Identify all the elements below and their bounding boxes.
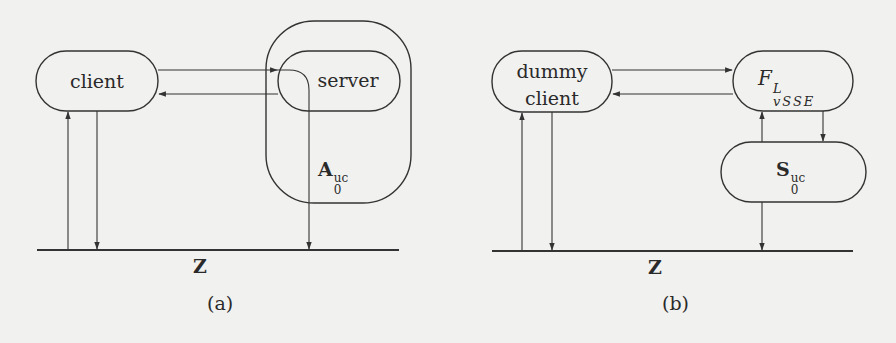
environment-label-a: Z — [193, 255, 207, 277]
adversary-symbol: A — [318, 158, 333, 180]
functionality-sub: vSSE — [773, 95, 815, 108]
dummy-client-line2: client — [492, 85, 612, 112]
adversary-sub: 0 — [334, 184, 348, 196]
diagram-canvas — [0, 0, 896, 343]
dummy-client-label: dummy client — [492, 58, 612, 112]
environment-label-b: Z — [648, 256, 662, 278]
panel-a — [36, 21, 411, 250]
caption-a: (a) — [207, 292, 233, 314]
server-label: server — [296, 69, 400, 91]
functionality-label: FLvSSE — [758, 66, 815, 108]
adversary-label: Auc0 — [318, 158, 348, 196]
simulator-sub: 0 — [791, 184, 805, 196]
simulator-label: Suc0 — [776, 158, 805, 196]
simulator-symbol: S — [776, 158, 790, 180]
functionality-symbol: F — [758, 66, 772, 90]
client-label: client — [36, 70, 158, 92]
caption-b: (b) — [662, 292, 689, 314]
dummy-client-line1: dummy — [492, 58, 612, 85]
